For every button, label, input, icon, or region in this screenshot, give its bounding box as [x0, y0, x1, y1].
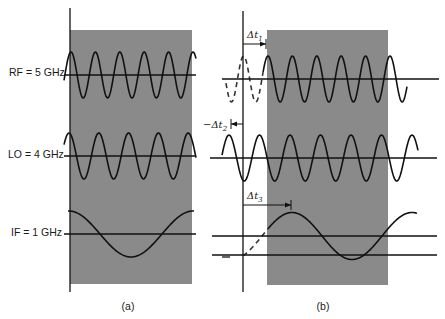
panel-a — [64, 8, 196, 292]
if-delayed-dashed-waveform — [243, 229, 268, 256]
delta-t2-label: −Δt2 — [203, 119, 228, 133]
lo-frequency-label: LO = 4 GHz — [8, 148, 64, 160]
delta-t3-label: Δt3 — [246, 190, 263, 204]
caption-a: (a) — [122, 300, 135, 312]
caption-b: (b) — [317, 300, 330, 312]
mixer-timing-diagram: Δt1 −Δt2 Δt3 RF = 5 GHz LO = 4 GHz IF = … — [0, 0, 445, 319]
delta-t2-arrow — [231, 119, 243, 129]
if-frequency-label: IF = 1 GHz — [11, 226, 62, 238]
panel-b: Δt1 −Δt2 Δt3 — [203, 11, 439, 292]
delta-t1-label: Δt1 — [246, 29, 263, 43]
rf-frequency-label: RF = 5 GHz — [9, 66, 65, 78]
